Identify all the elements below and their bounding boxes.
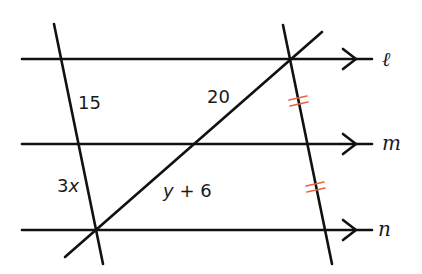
- line-name-n: n: [378, 217, 391, 241]
- label-diagonal-lower: y + 6: [162, 180, 212, 201]
- label-left-upper: 15: [78, 92, 101, 113]
- label-left-lower: 3x: [57, 175, 79, 196]
- label-diagonal-lower-rest: + 6: [174, 180, 212, 201]
- line-m: [22, 134, 372, 154]
- label-left-lower-var: x: [67, 175, 79, 196]
- line-name-l: ℓ: [382, 47, 391, 71]
- line-name-m: m: [382, 131, 401, 155]
- label-diagonal-lower-var: y: [162, 180, 174, 201]
- parallel-lines-diagram: 15 20 3x y + 6 ℓ m n: [0, 0, 422, 274]
- line-l: [22, 49, 372, 69]
- label-diagonal-upper: 20: [207, 86, 230, 107]
- line-n: [22, 220, 372, 240]
- label-left-lower-coef: 3: [57, 175, 68, 196]
